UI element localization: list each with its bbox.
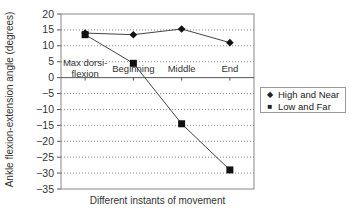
series-line (85, 29, 230, 43)
y-tick-label: −20 (36, 135, 54, 147)
square-marker-icon (226, 166, 233, 173)
series-line (85, 35, 230, 170)
square-marker-icon: ■ (265, 101, 275, 113)
y-tick-label: −10 (36, 103, 54, 115)
category-label: End (221, 63, 238, 74)
y-tick-label: 5 (48, 55, 54, 67)
y-tick-label: −5 (42, 87, 54, 99)
legend: ◆ High and Near ■ Low and Far (260, 87, 346, 113)
y-tick-label: 15 (42, 23, 54, 35)
y-tick-label: 10 (42, 39, 54, 51)
square-marker-icon (130, 60, 137, 67)
category-label: flexion (71, 68, 98, 79)
diamond-marker-icon (130, 31, 138, 39)
y-tick-label: 20 (42, 8, 54, 20)
legend-label: Low and Far (278, 101, 331, 113)
y-tick-label: −35 (36, 183, 54, 195)
square-marker-icon (178, 120, 185, 127)
plot-area (61, 14, 254, 189)
y-axis-title: Ankle flexion-extension angle (degrees) (4, 12, 15, 188)
legend-label: High and Near (278, 89, 339, 101)
y-tick-label: 0 (48, 71, 54, 83)
legend-item-high-and-near: ◆ High and Near (265, 89, 345, 101)
category-label: Max dorsi- (63, 57, 107, 68)
diamond-marker-icon (178, 25, 186, 33)
legend-item-low-and-far: ■ Low and Far (265, 101, 345, 113)
square-marker-icon (82, 31, 89, 38)
category-label: Middle (168, 63, 196, 74)
diamond-marker-icon: ◆ (265, 89, 275, 101)
y-tick-label: −25 (36, 151, 54, 163)
diamond-marker-icon (226, 39, 234, 47)
y-tick-label: −30 (36, 167, 54, 179)
y-tick-label: −15 (36, 119, 54, 131)
x-axis-title: Different instants of movement (90, 195, 226, 206)
